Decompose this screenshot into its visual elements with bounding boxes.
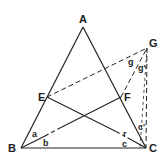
angle-b: b [43,138,49,148]
segment-GC [146,48,147,148]
triangle-figure: A B C E F G a b c c' r g g' [0,0,164,160]
label-A: A [79,13,87,25]
segment-AB [21,27,83,148]
segment-EC-solid [47,97,117,132]
label-E: E [38,91,45,103]
label-C: C [149,142,157,154]
angle-g: g [128,57,134,67]
label-B: B [8,142,16,154]
label-G: G [149,37,158,49]
segment-AC [83,27,146,148]
label-F: F [124,91,131,103]
angle-a: a [32,129,38,139]
geometry-diagram: A B C E F G a b c c' r g g' [0,0,164,160]
angle-r: r [123,129,127,139]
segment-BF-dashed [45,129,58,136]
angle-g-prime: g' [138,63,146,73]
angle-c: c [122,139,127,149]
angle-c-prime: c' [138,122,145,132]
segment-EG [47,48,147,97]
segment-BF-upper [58,97,121,129]
